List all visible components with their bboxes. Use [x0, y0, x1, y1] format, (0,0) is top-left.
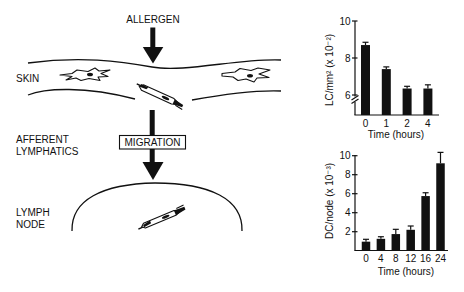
bar: [423, 85, 432, 115]
bar: [436, 152, 445, 250]
langerhans-cell-icon: [222, 68, 270, 82]
skin-label: SKIN: [16, 73, 39, 84]
x-tick-label: 16: [420, 253, 432, 264]
lymph-label: LYMPH: [16, 207, 50, 218]
y-tick-label: 8: [345, 53, 351, 64]
migrating-cell-icon: [135, 82, 185, 109]
y-tick-label: 6: [345, 188, 351, 199]
figure: ALLERGEN SKIN: [0, 0, 464, 292]
y-axis-label: LC/mm² (x 10⁻²): [324, 34, 335, 106]
afferent-label: AFFERENT: [16, 134, 69, 145]
migration-label: MIGRATION: [125, 137, 181, 148]
skin-lower-boundary-right: [192, 91, 281, 100]
bars: [361, 42, 432, 115]
down-arrow-icon: [143, 149, 164, 180]
bar: [406, 226, 415, 251]
arrow-shaft: [150, 110, 155, 136]
bar: [392, 229, 401, 250]
x-tick-label: 4: [425, 118, 431, 129]
x-tick-label: 4: [378, 253, 384, 264]
bar: [403, 86, 412, 115]
skin-lower-boundary-left: [28, 89, 135, 99]
x-tick-label: 0: [363, 118, 369, 129]
allergen-label: ALLERGEN: [126, 14, 179, 25]
y-tick-label: 2: [345, 226, 351, 237]
y-tick-label: 8: [345, 169, 351, 180]
bar: [382, 67, 391, 115]
x-axis-label: Time (hours): [378, 266, 434, 277]
x-tick-label: 1: [384, 118, 390, 129]
y-tick-label: 10: [339, 16, 351, 27]
migration-box: MIGRATION: [120, 136, 186, 150]
bar: [361, 42, 370, 115]
bar: [362, 239, 371, 250]
y-tick-label: 6: [345, 90, 351, 101]
bar: [421, 193, 430, 251]
migration-diagram: ALLERGEN SKIN: [16, 14, 281, 232]
x-tick-label: 12: [405, 253, 417, 264]
dendritic-cells-per-node-chart: DC/node (x 10⁻³) 246810 048121624 Time (…: [324, 150, 448, 277]
lymph-node-dendritic-cell-icon: [136, 205, 186, 231]
x-ticks: 0124: [363, 118, 431, 129]
y-axis-label: DC/node (x 10⁻³): [324, 163, 335, 239]
y-tick-label: 4: [345, 207, 351, 218]
y-tick-label: 10: [339, 150, 351, 161]
langerhans-cell-icon: [60, 68, 110, 81]
x-tick-label: 24: [435, 253, 447, 264]
lymph-node-outline: [72, 183, 242, 231]
x-tick-label: 2: [404, 118, 410, 129]
down-arrow-icon: [143, 28, 164, 64]
x-axis-label: Time (hours): [368, 129, 424, 140]
x-tick-label: 0: [363, 253, 369, 264]
node-label: NODE: [16, 219, 45, 230]
bar: [377, 237, 386, 251]
langerhans-cell-density-chart: LC/mm² (x 10⁻²) 6810 0124 Time (hours): [324, 16, 439, 140]
x-tick-label: 8: [393, 253, 399, 264]
bars: [362, 152, 445, 250]
lymphatics-label: LYMPHATICS: [16, 146, 79, 157]
x-ticks: 048121624: [363, 253, 446, 264]
